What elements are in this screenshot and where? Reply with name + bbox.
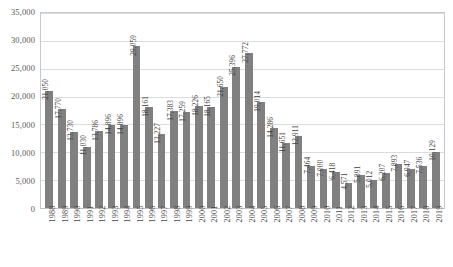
bar[interactable]: 7,464 [307,166,315,208]
bar-value-label: 13,227 [154,123,161,144]
bar-value-label: 7,536 [416,157,423,174]
bar[interactable]: 17,383 [170,111,178,208]
bar-value-label: 10,129 [428,140,435,161]
bar-slot: 19,014 [255,13,267,208]
x-axis-slot: 2018 [417,211,429,265]
bar-value-label: 17,770 [54,98,61,119]
bar[interactable]: 6,947 [407,169,415,208]
x-axis-slot: 2011 [330,211,342,265]
bar-slot: 11,030 [80,13,92,208]
bar-value-label: 6,947 [404,160,411,177]
y-axis: 05,00010,00015,00020,00025,00030,00035,0… [0,12,38,209]
bar-value-label: 11,651 [279,132,286,152]
bar-value-label: 17,383 [167,100,174,121]
bar-value-label: 13,786 [92,120,99,141]
bar-series: 21,05017,77013,73011,03013,78614,89614,8… [41,13,444,208]
bar[interactable]: 11,030 [83,147,91,208]
bar-value-label: 19,014 [254,91,261,112]
x-axis-slot: 1989 [55,211,67,265]
bar[interactable]: 14,896 [120,125,128,208]
bar[interactable]: 13,730 [70,132,78,208]
x-axis: 1988198919901991199219931994199519961997… [41,211,444,265]
bar-value-label: 29,059 [129,35,136,56]
bar-slot: 13,786 [93,13,105,208]
bar-value-label: 25,396 [229,55,236,76]
x-axis-slot: 2013 [355,211,367,265]
bar-value-label: 14,286 [266,117,273,138]
bar-value-label: 14,896 [104,114,111,135]
bar[interactable]: 14,286 [270,128,278,208]
bar[interactable]: 13,227 [158,134,166,208]
bar[interactable]: 17,259 [183,112,191,208]
bar[interactable]: 4,571 [345,183,353,208]
bar[interactable]: 5,891 [357,175,365,208]
bar[interactable]: 21,050 [45,91,53,208]
bar[interactable]: 17,770 [58,109,66,208]
bar-value-label: 11,030 [79,135,86,155]
bar-value-label: 7,464 [304,157,311,174]
y-axis-tick-label: 20,000 [11,91,35,101]
bar-slot: 18,161 [143,13,155,208]
y-axis-tick-label: 30,000 [11,35,35,45]
x-axis-slot: 2014 [367,211,379,265]
x-axis-slot: 1998 [168,211,180,265]
bar-value-label: 5,012 [366,171,373,188]
bar[interactable]: 27,772 [245,53,253,208]
bar[interactable]: 10,129 [432,152,440,208]
x-axis-slot: 1993 [105,211,117,265]
x-axis-slot: 1999 [180,211,192,265]
bar-slot: 7,536 [417,13,429,208]
bar[interactable]: 18,161 [145,107,153,208]
y-axis-tick-label: 5,000 [15,176,35,186]
bar[interactable]: 25,396 [232,67,240,208]
bar[interactable]: 14,896 [108,125,116,208]
x-axis-slot: 2009 [305,211,317,265]
bar-slot: 7,464 [305,13,317,208]
bar[interactable]: 18,226 [195,106,203,208]
bar-value-label: 13,730 [67,120,74,141]
x-axis-slot: 1995 [130,211,142,265]
bar[interactable]: 7,000 [320,169,328,208]
x-axis-slot: 2000 [193,211,205,265]
bar[interactable]: 21,650 [220,87,228,208]
bar-value-label: 6,418 [329,163,336,180]
bar-value-label: 12,911 [291,125,298,145]
x-axis-slot: 2016 [392,211,404,265]
bar-value-label: 7,893 [391,155,398,172]
bar-value-label: 5,891 [354,166,361,183]
bar[interactable]: 18,165 [207,107,215,208]
bar-slot: 12,911 [292,13,304,208]
bar-value-label: 18,165 [204,95,211,116]
bar[interactable]: 11,651 [282,143,290,208]
bar[interactable]: 13,786 [95,131,103,208]
x-axis-slot: 2002 [218,211,230,265]
x-axis-slot: 1991 [80,211,92,265]
bar-value-label: 21,050 [42,79,49,100]
y-axis-tick-label: 10,000 [11,148,35,158]
x-axis-slot: 1988 [43,211,55,265]
bar-value-label: 14,896 [117,114,124,135]
bar-value-label: 7,000 [316,160,323,177]
bar-value-label: 18,161 [142,95,149,116]
bar[interactable]: 7,893 [395,164,403,208]
bar[interactable]: 6,207 [382,173,390,208]
bar-slot: 11,651 [280,13,292,208]
bar[interactable]: 5,012 [370,180,378,208]
y-axis-tick-label: 15,000 [11,120,35,130]
x-axis-slot: 2012 [342,211,354,265]
x-axis-slot: 2001 [205,211,217,265]
bar-value-label: 6,207 [379,164,386,181]
bar-slot: 7,893 [392,13,404,208]
bar[interactable]: 6,418 [332,172,340,208]
bar[interactable]: 7,536 [419,166,427,208]
bar-slot: 17,770 [55,13,67,208]
bar-value-label: 27,772 [241,42,248,63]
bar[interactable]: 19,014 [257,102,265,208]
bar-slot: 14,286 [267,13,279,208]
bar[interactable]: 12,911 [295,136,303,208]
y-axis-tick-label: 0 [31,204,35,214]
x-axis-slot: 2006 [267,211,279,265]
x-axis-slot: 2005 [255,211,267,265]
bar[interactable]: 29,059 [133,46,141,208]
bar-value-label: 21,650 [217,76,224,97]
